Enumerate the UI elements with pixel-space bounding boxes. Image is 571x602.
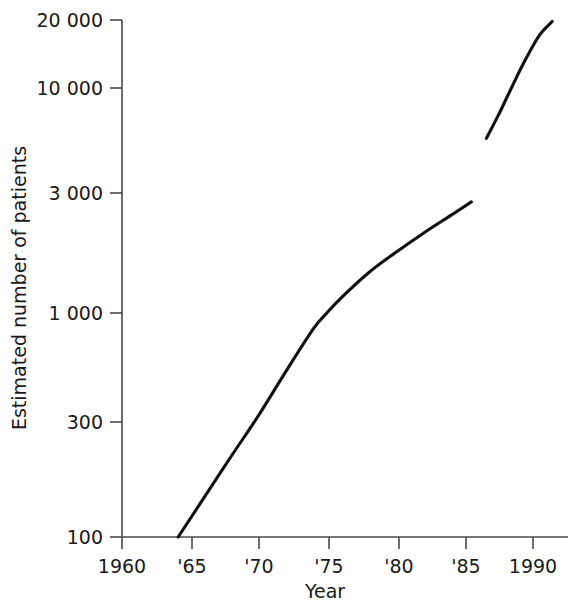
x-ticklabel-1980: '80 <box>384 555 413 577</box>
chart-figure: 20 000 10 000 3 000 1 000 300 100 1960 '… <box>0 0 571 602</box>
x-ticklabel-1985: '85 <box>451 555 480 577</box>
y-ticklabel-3000: 3 000 <box>49 182 103 204</box>
y-ticklabel-10000: 10 000 <box>37 77 103 99</box>
y-ticklabel-20000: 20 000 <box>37 9 103 31</box>
chart-canvas: 20 000 10 000 3 000 1 000 300 100 1960 '… <box>0 0 571 602</box>
x-ticklabel-1975: '75 <box>314 555 343 577</box>
x-ticklabel-1965: '65 <box>177 555 206 577</box>
y-ticklabel-100: 100 <box>67 526 103 548</box>
x-ticklabel-1970: '70 <box>244 555 273 577</box>
y-axis-title: Estimated number of patients <box>8 146 30 430</box>
y-ticklabel-1000: 1 000 <box>49 302 103 324</box>
x-axis-title: Year <box>304 580 345 602</box>
data-curve-segment-2 <box>486 21 552 138</box>
x-ticklabel-1960: 1960 <box>98 555 146 577</box>
x-ticklabel-1990: 1990 <box>509 555 557 577</box>
data-curve-segment-1 <box>178 202 471 537</box>
y-ticklabel-300: 300 <box>67 411 103 433</box>
